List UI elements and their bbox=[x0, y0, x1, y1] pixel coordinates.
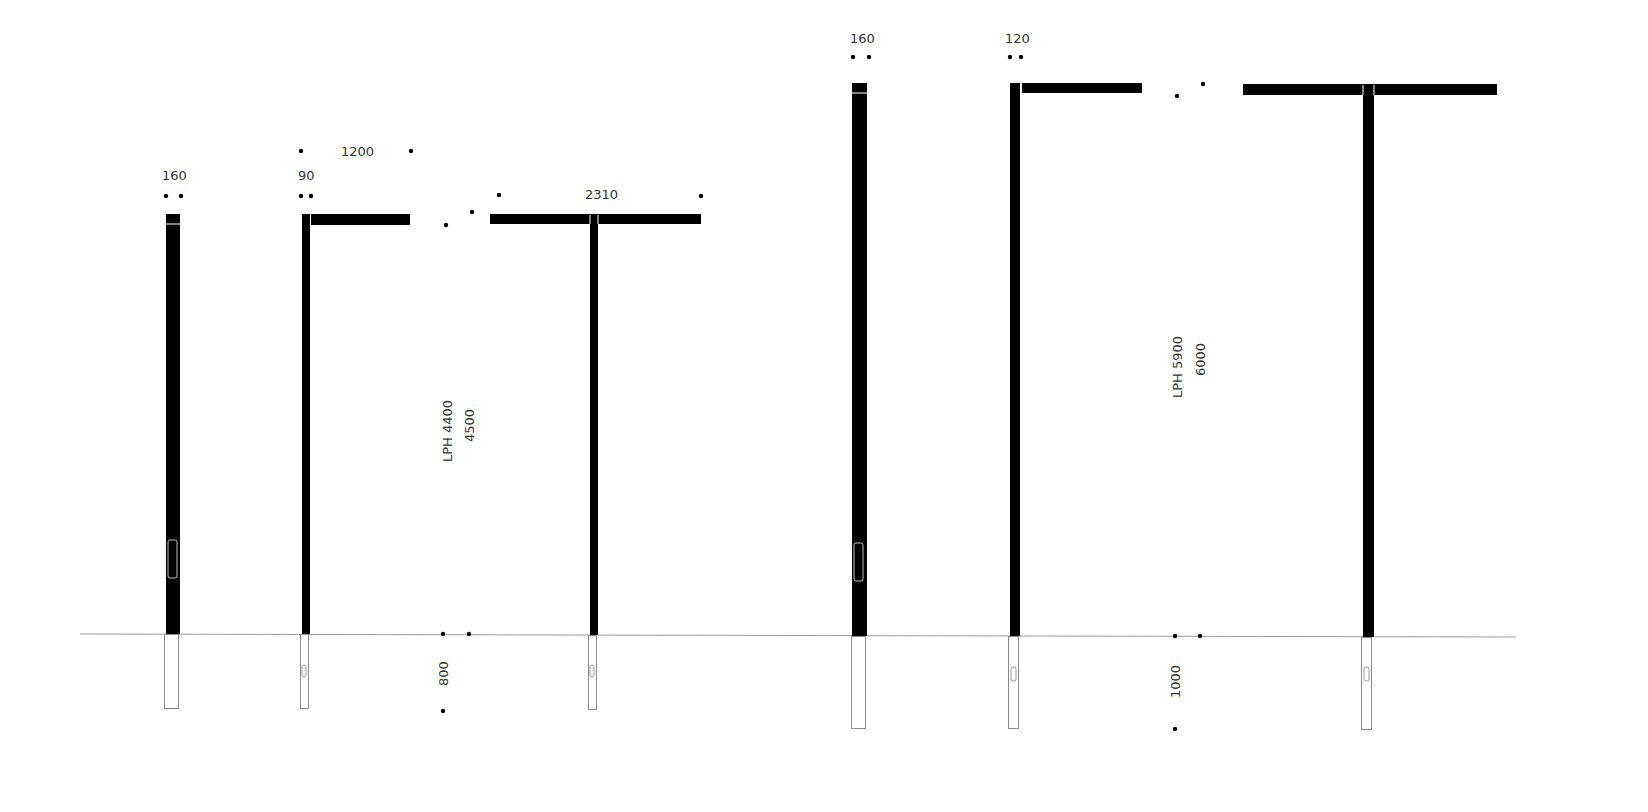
foundation bbox=[852, 637, 866, 729]
ground-line bbox=[80, 634, 1516, 637]
pole-elevation-drawing: 160 90 1200 LPH 4400 4500 800 2310 bbox=[0, 0, 1648, 812]
single-arm-pole-small: 90 1200 bbox=[298, 144, 413, 709]
straight-pole-large: 160 bbox=[850, 31, 875, 729]
total-height-label: 6000 bbox=[1193, 343, 1208, 376]
diameter-label: 160 bbox=[850, 31, 875, 46]
diameter-label: 90 bbox=[298, 168, 315, 183]
diameter-label: 160 bbox=[162, 168, 187, 183]
straight-pole-small: 160 bbox=[162, 168, 187, 709]
double-arm-pole-large bbox=[1243, 84, 1497, 730]
diameter-label: 120 bbox=[1005, 31, 1030, 46]
lph-height-label: LPH 5900 bbox=[1170, 336, 1185, 398]
double-arm-pole-small: 2310 bbox=[490, 187, 703, 710]
foundation bbox=[1362, 638, 1372, 730]
foundation bbox=[165, 635, 179, 709]
foundation bbox=[1009, 637, 1019, 729]
single-arm-pole-large: 120 bbox=[1005, 31, 1142, 729]
arm-length-label: 1200 bbox=[341, 144, 374, 159]
total-height-label: 4500 bbox=[462, 409, 477, 442]
foundation-depth-label: 1000 bbox=[1168, 665, 1183, 698]
lph-height-label: LPH 4400 bbox=[440, 400, 455, 462]
foundation-depth-label: 800 bbox=[436, 661, 451, 686]
arm-span-label: 2310 bbox=[585, 187, 618, 202]
